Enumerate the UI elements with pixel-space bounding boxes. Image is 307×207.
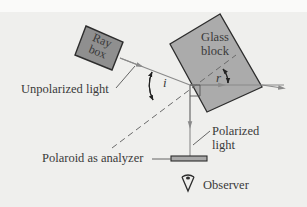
eye-icon [182, 175, 194, 191]
angle-r-label: r [216, 71, 221, 84]
glass-block [170, 14, 262, 112]
analyzer-label: Polaroid as analyzer [42, 152, 143, 165]
unpolarized-light-label: Unpolarized light [21, 83, 109, 96]
angle-i-label: i [163, 76, 167, 89]
polaroid-analyzer [171, 156, 207, 161]
glass-block-label: Glass block [194, 30, 236, 58]
polarized-leader [193, 131, 210, 145]
polarized-light-label: Polarized light [212, 124, 259, 152]
brewster-angle-diagram: Ray box Glass block Unpolarized light i … [0, 0, 307, 207]
unpolarized-leader [116, 66, 135, 88]
observer-label: Observer [203, 179, 249, 192]
diagram-graphics [0, 0, 307, 207]
